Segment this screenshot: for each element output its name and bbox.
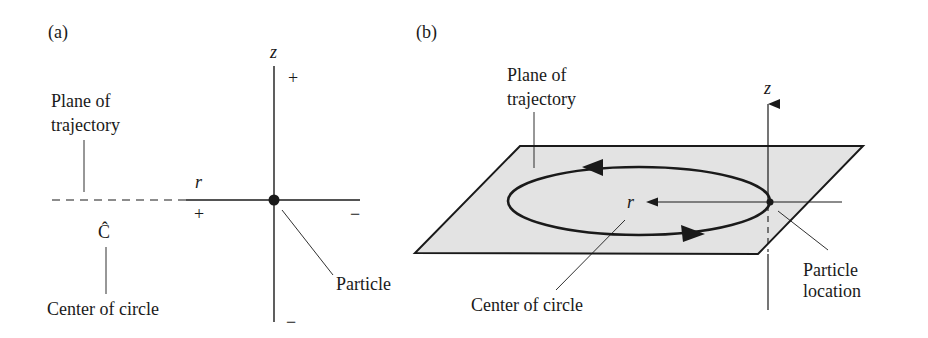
- plane-label-line1: Plane of: [51, 91, 110, 111]
- panel-b-label: (b): [416, 22, 437, 43]
- trajectory-plane: [415, 146, 863, 254]
- center-symbol: Ĉ: [98, 221, 110, 242]
- r-minus-sign: −: [350, 204, 360, 224]
- figure: (a) z + − r + − Particle Plane of trajec…: [0, 0, 928, 338]
- diagram-canvas: (a) z + − r + − Particle Plane of trajec…: [0, 0, 928, 338]
- panel-a-label: (a): [48, 22, 68, 43]
- z-axis-label-b: z: [763, 78, 771, 98]
- particle-dot-b: [767, 199, 774, 206]
- particle-label-b-line1: Particle: [803, 260, 858, 280]
- particle-leader-line-b: [778, 211, 828, 250]
- particle-leader-line: [282, 210, 333, 275]
- center-label: Center of circle: [47, 299, 159, 319]
- particle-dot: [269, 195, 280, 206]
- z-axis-label: z: [269, 42, 277, 62]
- r-label-b: r: [627, 192, 635, 212]
- panel-a: (a) z + − r + − Particle Plane of trajec…: [47, 22, 391, 332]
- plane-label-b-line2: trajectory: [507, 89, 576, 109]
- particle-label-b-line2: location: [803, 281, 861, 301]
- r-axis-label: r: [195, 172, 203, 192]
- plane-label-b-line1: Plane of: [507, 65, 566, 85]
- plane-label-line2: trajectory: [51, 115, 120, 135]
- panel-b: (b) z r Plane of trajectory Center of ci…: [415, 22, 863, 315]
- z-minus-sign: −: [286, 312, 296, 332]
- z-plus-sign: +: [288, 68, 298, 88]
- r-plus-sign: +: [194, 204, 204, 224]
- particle-label: Particle: [336, 274, 391, 294]
- center-label-b: Center of circle: [471, 295, 583, 315]
